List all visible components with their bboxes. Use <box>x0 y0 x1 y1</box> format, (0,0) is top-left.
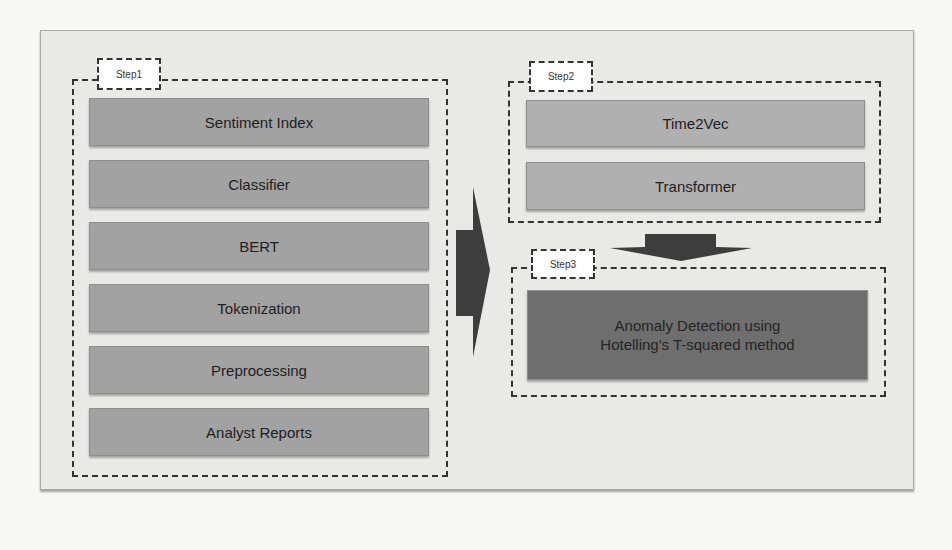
step3-item-anomaly-detection: Anomaly Detection using Hotelling's T-sq… <box>527 290 868 380</box>
step3-label: Step3 <box>531 249 595 279</box>
anomaly-line-1: Anomaly Detection using <box>615 316 781 335</box>
anomaly-line-2: Hotelling's T-squared method <box>600 335 794 354</box>
